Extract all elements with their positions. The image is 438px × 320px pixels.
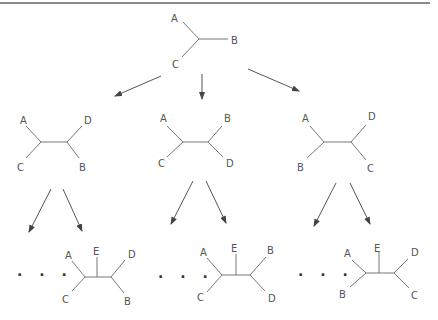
tree-diagram: A B C A C D B A C B D A: [0, 0, 438, 320]
node-label: A: [160, 113, 167, 124]
node-label: B: [231, 35, 238, 46]
node-label: C: [172, 59, 179, 70]
node-label: D: [368, 111, 376, 122]
node-label: A: [171, 13, 178, 24]
node-label: E: [374, 243, 380, 254]
node-label: B: [124, 296, 131, 307]
level2-tree-2: A C B D: [158, 113, 234, 169]
node-label: E: [93, 246, 99, 257]
node-label: B: [224, 113, 231, 124]
node-label: A: [65, 250, 72, 261]
node-label: A: [302, 113, 309, 124]
level3-tree-1: . . . A C E D B: [17, 246, 136, 307]
node-label: B: [339, 289, 346, 300]
node-label: C: [197, 292, 204, 303]
root-arrows: [115, 69, 299, 99]
node-label: B: [79, 162, 86, 173]
node-label: A: [200, 247, 207, 258]
node-label: B: [267, 245, 274, 256]
node-label: C: [367, 163, 374, 174]
root-tree: A B C: [171, 13, 238, 70]
node-label: C: [158, 158, 165, 169]
ellipsis: . . .: [17, 263, 73, 279]
node-label: C: [411, 290, 418, 301]
node-label: A: [20, 115, 27, 126]
node-label: D: [268, 293, 276, 304]
node-label: C: [17, 162, 24, 173]
node-label: A: [344, 248, 351, 259]
ellipsis: . . .: [158, 265, 214, 281]
node-label: D: [128, 249, 136, 260]
node-label: B: [297, 162, 304, 173]
level2-tree-3: A B D C: [297, 111, 376, 174]
node-label: D: [226, 158, 234, 169]
level3-tree-3: . . . A B E D C: [298, 243, 419, 301]
level2-tree-1: A C D B: [17, 115, 92, 173]
node-label: C: [62, 294, 69, 305]
node-label: D: [84, 115, 92, 126]
node-label: E: [231, 243, 237, 254]
level2-arrows: [29, 181, 370, 232]
ellipsis: . . .: [298, 263, 354, 279]
node-label: D: [411, 247, 419, 258]
level3-tree-2: . . . A C E B D: [158, 243, 276, 304]
